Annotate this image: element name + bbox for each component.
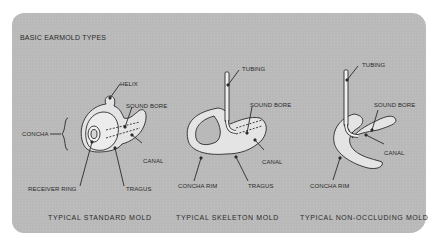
label-canal: CANAL [384, 150, 405, 156]
label-canal: CANAL [262, 159, 283, 165]
standard-mold-icon [50, 84, 146, 186]
label-sound-bore: SOUND BORE [374, 102, 415, 108]
label-concha: CONCHA [22, 131, 49, 137]
caption-non-occluding-mold: TYPICAL NON-OCCLUDING MOLD [300, 214, 429, 221]
label-receiver-ring: RECEIVER RING [28, 186, 77, 192]
caption-standard-mold: TYPICAL STANDARD MOLD [48, 214, 152, 221]
label-sound-bore: SOUND BORE [126, 103, 167, 109]
caption-skeleton-mold: TYPICAL SKELETON MOLD [176, 214, 279, 221]
label-tubing: TUBING [242, 66, 265, 72]
label-tragus: TRAGUS [248, 183, 274, 189]
label-canal: CANAL [143, 158, 164, 164]
label-tubing: TUBING [362, 62, 385, 68]
label-tragus: TRAGUS [126, 186, 152, 192]
label-sound-bore: SOUND BORE [250, 102, 291, 108]
skeleton-mold-icon [187, 70, 266, 181]
label-concha-rim: CONCHA RIM [178, 183, 217, 189]
non-occluding-mold-icon [333, 66, 396, 180]
label-helix: HELIX [120, 81, 138, 87]
label-concha-rim: CONCHA RIM [310, 183, 349, 189]
